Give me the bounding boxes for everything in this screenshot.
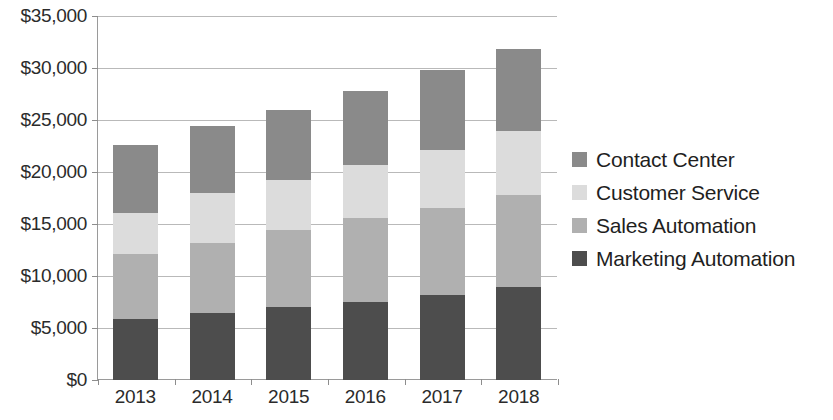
y-axis-tick-label: $35,000 [20,5,87,27]
y-axis-tick-label: $15,000 [20,213,87,235]
bar-segment[interactable] [266,180,311,230]
bar-segment[interactable] [496,287,541,380]
legend-label: Customer Service [596,181,760,205]
x-axis-tick-label: 2016 [325,386,405,408]
bar-segment[interactable] [190,313,235,380]
bar-segment[interactable] [343,165,388,218]
bar-segment[interactable] [190,126,235,193]
legend-label: Contact Center [596,148,734,172]
x-axis-tick-label: 2017 [402,386,482,408]
x-axis-tick-label: 2013 [95,386,175,408]
bar-segment[interactable] [496,195,541,288]
bar-segment[interactable] [496,49,541,131]
bar-segment[interactable] [420,150,465,208]
bar-segment[interactable] [420,70,465,150]
legend-item-contact-center[interactable]: Contact Center [572,143,830,176]
bar-stack[interactable] [113,145,158,380]
bar-stack[interactable] [496,49,541,380]
x-axis-tick-label: 2015 [249,386,329,408]
bar-segment[interactable] [343,302,388,380]
legend-swatch-icon [572,185,587,200]
x-axis-tick-label: 2014 [172,386,252,408]
bar-segment[interactable] [420,208,465,295]
y-axis-tick-label: $10,000 [20,265,87,287]
legend-item-sales-automation[interactable]: Sales Automation [572,209,830,242]
bar-segment[interactable] [190,243,235,314]
legend-label: Marketing Automation [596,247,795,271]
y-axis-tick-label: $20,000 [20,161,87,183]
bar-stack[interactable] [343,91,388,380]
x-axis-tick [558,379,559,385]
bar-segment[interactable] [190,193,235,243]
bar-segment[interactable] [113,319,158,380]
bar-segment[interactable] [343,218,388,302]
legend-swatch-icon [572,152,587,167]
stacked-bar-chart: $0$5,000$10,000$15,000$20,000$25,000$30,… [0,0,833,420]
bar-stack[interactable] [190,126,235,380]
legend-item-marketing-automation[interactable]: Marketing Automation [572,242,830,275]
bar-stack[interactable] [266,110,311,380]
bar-segment[interactable] [420,295,465,380]
x-axis-tick-label: 2018 [479,386,559,408]
y-axis-tick-label: $30,000 [20,57,87,79]
bar-segment[interactable] [343,91,388,165]
bars-container [97,16,557,380]
legend-item-customer-service[interactable]: Customer Service [572,176,830,209]
bar-stack[interactable] [420,70,465,380]
legend-label: Sales Automation [596,214,756,238]
bar-segment[interactable] [266,230,311,306]
chart-legend: Contact Center Customer Service Sales Au… [572,143,830,275]
bar-segment[interactable] [496,131,541,194]
legend-swatch-icon [572,251,587,266]
y-axis-tick-label: $0 [66,369,87,391]
bar-segment[interactable] [266,110,311,181]
legend-swatch-icon [572,218,587,233]
bar-segment[interactable] [113,254,158,319]
y-axis-tick-label: $25,000 [20,109,87,131]
bar-segment[interactable] [113,213,158,254]
y-axis-tick-label: $5,000 [31,317,87,339]
bar-segment[interactable] [266,307,311,380]
bar-segment[interactable] [113,145,158,213]
